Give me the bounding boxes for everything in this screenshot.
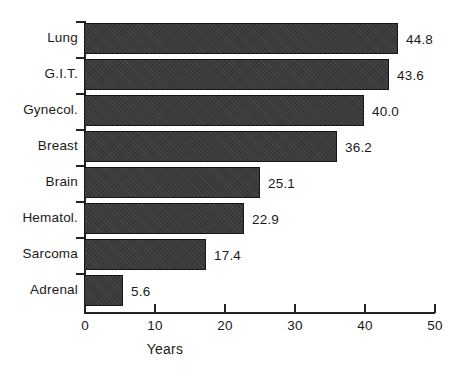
x-axis-tick [294, 304, 296, 313]
bar-value-adrenal: 5.6 [131, 283, 150, 298]
bar-value-sarcoma: 17.4 [214, 247, 241, 262]
category-label-adrenal: Adrenal [0, 282, 78, 297]
bar-chart: Lung 44.8 G.I.T. 43.6 Gynecol. 40.0 Brea… [0, 0, 463, 378]
bar-value-breast: 36.2 [345, 139, 372, 154]
x-tick-label-50: 50 [415, 318, 455, 333]
bar-value-gynecol: 40.0 [372, 103, 399, 118]
category-label-breast: Breast [0, 138, 78, 153]
x-axis-tick [84, 304, 86, 313]
x-axis-tick [224, 304, 226, 313]
x-axis-tick [434, 304, 436, 313]
x-axis-line [84, 312, 435, 314]
bar-adrenal [84, 275, 123, 306]
bar-gynecol [84, 95, 364, 126]
category-label-git: G.I.T. [0, 66, 78, 81]
category-label-text: Lung [47, 30, 78, 45]
category-label-text: Breast [38, 138, 78, 153]
x-axis-title: Years [0, 341, 463, 357]
category-label-brain: Brain [0, 174, 78, 189]
category-label-hematol: Hematol. [0, 210, 78, 225]
category-label-text: Sarcoma [23, 246, 78, 261]
category-label-text: Hematol. [22, 210, 78, 225]
bar-value-lung: 44.8 [406, 31, 433, 46]
bar-breast [84, 131, 337, 162]
x-tick-label-40: 40 [345, 318, 385, 333]
bar-value-hematol: 22.9 [252, 211, 279, 226]
category-label-sarcoma: Sarcoma [0, 246, 78, 261]
bar-git [84, 59, 389, 90]
bar-value-brain: 25.1 [268, 175, 295, 190]
category-label-text: Gynecol. [23, 102, 78, 117]
x-axis-tick [154, 304, 156, 313]
bar-lung [84, 23, 398, 54]
category-label-text: Adrenal [30, 282, 78, 297]
category-label-gynecol: Gynecol. [0, 102, 78, 117]
x-tick-label-30: 30 [275, 318, 315, 333]
category-label-text: G.I.T. [45, 66, 78, 81]
bar-brain [84, 167, 260, 198]
x-tick-label-0: 0 [65, 318, 105, 333]
category-label-lung: Lung [0, 30, 78, 45]
bar-hematol [84, 203, 244, 234]
category-label-text: Brain [45, 174, 78, 189]
x-tick-label-20: 20 [205, 318, 245, 333]
x-axis-title-text: Years [147, 341, 183, 357]
x-tick-label-10: 10 [135, 318, 175, 333]
bar-value-git: 43.6 [397, 67, 424, 82]
plot-area: Lung 44.8 G.I.T. 43.6 Gynecol. 40.0 Brea… [0, 0, 463, 378]
x-axis-tick [364, 304, 366, 313]
bar-sarcoma [84, 239, 206, 270]
